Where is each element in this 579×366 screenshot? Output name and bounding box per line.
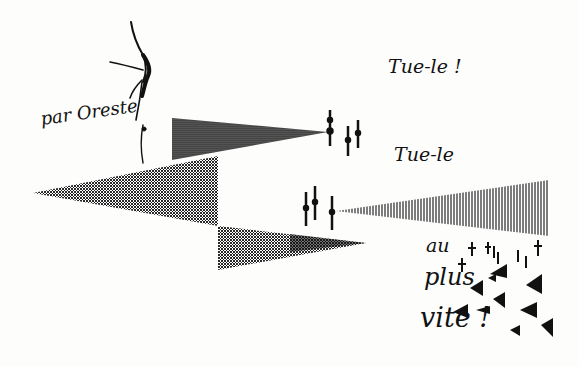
right-striped-wedge [336, 180, 549, 236]
left-large-wedge [33, 156, 218, 226]
artwork-drawing [0, 0, 579, 366]
text-vite: vite ! [420, 302, 490, 333]
dancing-figure-icon [110, 22, 149, 163]
text-tue-le-2: Tue-le [394, 143, 454, 165]
text-plus: plus [424, 263, 475, 291]
text-au: au [426, 234, 450, 256]
artwork-canvas: par Oreste Tue-le ! Tue-le au plus vite … [0, 0, 579, 366]
text-tue-le-1: Tue-le ! [388, 55, 462, 77]
upper-dark-wedge [172, 118, 328, 160]
